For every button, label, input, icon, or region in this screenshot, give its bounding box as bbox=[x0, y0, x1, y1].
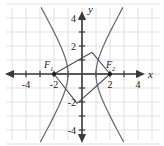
y-axis-label: y bbox=[87, 3, 93, 15]
hyperbola-figure: -4-22442-2-4 x y F1 F2 bbox=[0, 0, 164, 146]
text-overlay: x y F1 F2 bbox=[0, 0, 164, 146]
x-axis-label: x bbox=[147, 68, 153, 80]
focus-2-label: F2 bbox=[105, 59, 116, 72]
focus-1-label: F1 bbox=[43, 59, 53, 72]
